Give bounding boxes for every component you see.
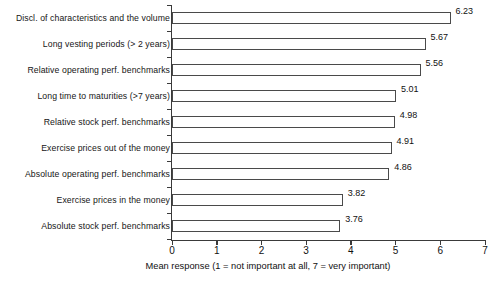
bar-value-label: 4.86 (394, 161, 412, 173)
bar-value-label: 4.98 (400, 109, 418, 121)
category-tick (167, 31, 172, 32)
bar-rows: Discl. of characteristics and the volume… (0, 0, 496, 241)
bar-wrapper (172, 220, 340, 232)
bar-chart: Discl. of characteristics and the volume… (0, 0, 496, 286)
category-tick (167, 5, 172, 6)
category-tick (167, 187, 172, 188)
bar-wrapper (172, 64, 421, 76)
bar[interactable] (172, 168, 389, 180)
bar[interactable] (172, 194, 343, 206)
value-tick-label: 0 (160, 245, 184, 256)
value-tick-label: 7 (473, 245, 496, 256)
value-tick-label: 5 (384, 245, 408, 256)
bar-row[interactable]: Absolute stock perf. benchmarks3.76 (0, 213, 496, 239)
category-label: Long time to maturities (>7 years) (37, 83, 170, 109)
bar-value-label: 6.23 (456, 5, 474, 17)
bar[interactable] (172, 38, 426, 50)
bar[interactable] (172, 64, 421, 76)
category-tick (167, 109, 172, 110)
bar-wrapper (172, 116, 395, 128)
category-label: Absolute operating perf. benchmarks (25, 161, 170, 187)
bar-value-label: 5.67 (431, 31, 449, 43)
bar-value-label: 5.56 (426, 57, 444, 69)
category-label: Discl. of characteristics and the volume (16, 5, 170, 31)
bar[interactable] (172, 220, 340, 232)
bar[interactable] (172, 142, 392, 154)
bar-wrapper (172, 90, 396, 102)
bar-wrapper (172, 194, 343, 206)
category-label: Relative operating perf. benchmarks (27, 57, 170, 83)
value-tick-label: 4 (339, 245, 363, 256)
bar-row[interactable]: Absolute operating perf. benchmarks4.86 (0, 161, 496, 187)
value-tick-label: 3 (294, 245, 318, 256)
x-axis-title: Mean response (1 = not important at all,… (0, 261, 496, 271)
bar-wrapper (172, 38, 426, 50)
category-tick (167, 161, 172, 162)
bar-value-label: 5.01 (401, 83, 419, 95)
value-tick-label: 2 (249, 245, 273, 256)
bar-wrapper (172, 168, 389, 180)
category-label: Absolute stock perf. benchmarks (41, 213, 170, 239)
category-label: Long vesting periods (> 2 years) (43, 31, 170, 57)
bar-value-label: 4.91 (397, 135, 415, 147)
bar[interactable] (172, 90, 396, 102)
category-tick (167, 135, 172, 136)
bar-row[interactable]: Long vesting periods (> 2 years)5.67 (0, 31, 496, 57)
value-tick-label: 1 (205, 245, 229, 256)
bar-row[interactable]: Exercise prices out of the money4.91 (0, 135, 496, 161)
bar-value-label: 3.76 (345, 213, 363, 225)
category-label: Relative stock perf. benchmarks (44, 109, 170, 135)
category-tick (167, 83, 172, 84)
bar-row[interactable]: Relative operating perf. benchmarks5.56 (0, 57, 496, 83)
bar-row[interactable]: Relative stock perf. benchmarks4.98 (0, 109, 496, 135)
category-label: Exercise prices in the money (57, 187, 171, 213)
category-tick (167, 57, 172, 58)
category-tick (167, 213, 172, 214)
category-label: Exercise prices out of the money (41, 135, 170, 161)
bar-wrapper (172, 12, 451, 24)
bar-value-label: 3.82 (348, 187, 366, 199)
bar-row[interactable]: Long time to maturities (>7 years)5.01 (0, 83, 496, 109)
value-tick-label: 6 (428, 245, 452, 256)
x-axis-title-text: Mean response (1 = not important at all,… (106, 261, 391, 271)
bar[interactable] (172, 12, 451, 24)
plot-area: Discl. of characteristics and the volume… (0, 0, 496, 248)
bar[interactable] (172, 116, 395, 128)
bar-wrapper (172, 142, 392, 154)
bar-row[interactable]: Discl. of characteristics and the volume… (0, 5, 496, 31)
bar-row[interactable]: Exercise prices in the money3.82 (0, 187, 496, 213)
